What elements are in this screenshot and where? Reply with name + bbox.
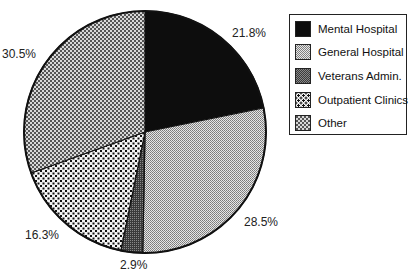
legend-label: Other [318,117,347,129]
legend-swatch-solid-black-icon [295,21,311,37]
legend-label: Mental Hospital [318,23,397,35]
pie-slices [24,11,266,253]
legend-label: Outpatient Clinics [318,94,408,106]
chart-legend: Mental Hospital General Hospital Veteran… [289,14,407,135]
pie-slice-general-hospital [143,108,266,253]
legend-swatch-light-checker-icon [295,44,311,60]
legend-item-mental-hospital: Mental Hospital [295,20,397,37]
slice-label-mental-hospital: 21.8% [232,26,266,40]
legend-item-veterans-admin: Veterans Admin. [295,67,402,84]
legend-swatch-crosshatch-icon [295,115,311,131]
slice-label-other: 30.5% [2,47,36,61]
slice-label-outpatient-clinics: 16.3% [25,228,59,242]
legend-swatch-dark-checker-icon [295,68,311,84]
legend-swatch-dots-icon [295,92,311,108]
slice-label-veterans-admin: 2.9% [120,258,147,272]
legend-item-general-hospital: General Hospital [295,43,404,60]
legend-item-other: Other [295,114,347,131]
legend-item-outpatient-clinics: Outpatient Clinics [295,91,408,108]
slice-label-general-hospital: 28.5% [244,215,278,229]
legend-label: General Hospital [318,46,404,58]
legend-label: Veterans Admin. [318,70,402,82]
